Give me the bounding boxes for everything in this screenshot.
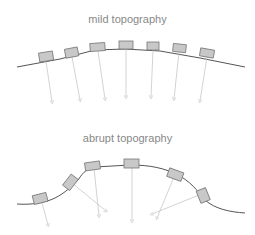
topography-diagram (0, 0, 255, 235)
mild-sensors (38, 41, 214, 62)
abrupt-panel (17, 159, 245, 225)
mild-panel (17, 41, 245, 102)
abrupt-surface-line (17, 165, 245, 213)
